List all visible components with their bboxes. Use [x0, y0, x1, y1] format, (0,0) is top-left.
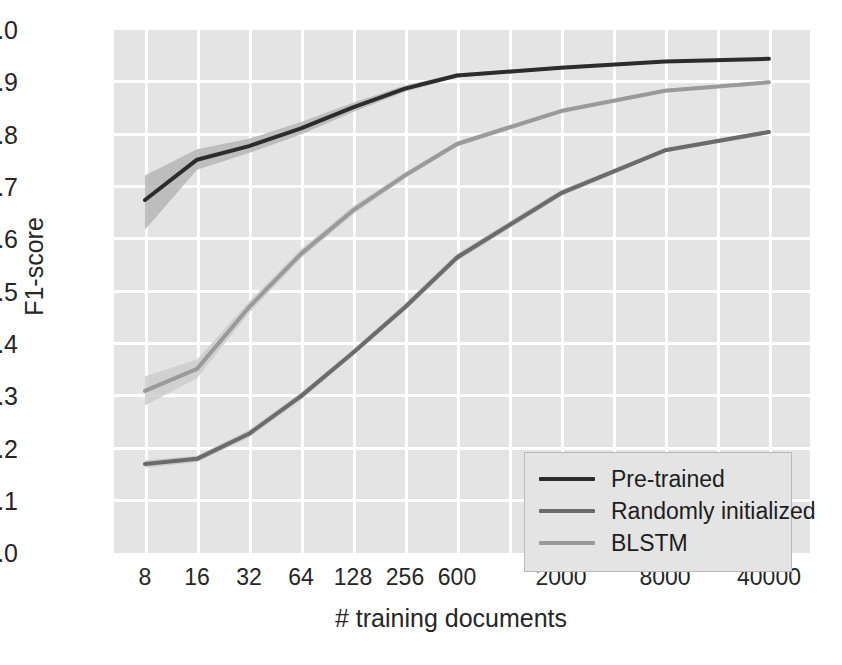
y-tick-label: 1.0 [0, 18, 18, 43]
x-tick-label: 32 [236, 566, 262, 589]
legend-item-pre-trained[interactable]: Pre-trained [525, 463, 791, 495]
y-tick-label: 0.8 [0, 123, 18, 148]
y-tick-label: 0.9 [0, 70, 18, 95]
y-tick-label: 0.7 [0, 175, 18, 200]
x-tick-label: 600 [438, 566, 476, 589]
y-tick-label: 0.3 [0, 384, 18, 409]
legend-label: BLSTM [611, 532, 688, 555]
x-tick-label: 64 [288, 566, 314, 589]
y-tick-label: 0.0 [0, 541, 18, 566]
legend-swatch-icon [539, 541, 595, 545]
x-tick-label: 16 [184, 566, 210, 589]
y-tick-label: 0.5 [0, 280, 18, 305]
y-tick-label: 0.6 [0, 227, 18, 252]
x-tick-label: 256 [386, 566, 424, 589]
legend-swatch-icon [539, 509, 595, 513]
chart-legend: Pre-trained Randomly initialized BLSTM [524, 452, 792, 572]
legend-item-blstm[interactable]: BLSTM [525, 527, 791, 559]
y-tick-label: 0.1 [0, 489, 18, 514]
x-tick-label: 128 [334, 566, 372, 589]
legend-swatch-icon [539, 477, 595, 481]
x-tick-label: 8 [139, 566, 152, 589]
legend-item-randomly-initialized[interactable]: Randomly initialized [525, 495, 791, 527]
x-axis-label-wrap: # training documents [0, 604, 842, 633]
chart-figure: F1-score 1.0 0.9 0.8 0.7 0.6 0.5 0.4 0.3… [0, 0, 842, 665]
y-tick-label: 0.4 [0, 332, 18, 357]
y-tick-label: 0.2 [0, 437, 18, 462]
x-axis-label: # training documents [335, 604, 567, 633]
legend-label: Randomly initialized [611, 500, 816, 523]
y-axis-label: F1-score [20, 137, 49, 397]
legend-label: Pre-trained [611, 468, 725, 491]
